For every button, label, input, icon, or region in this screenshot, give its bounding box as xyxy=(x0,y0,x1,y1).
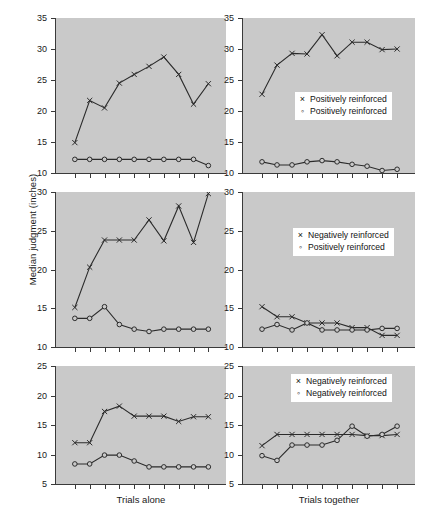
y-tick-label-row2-left-10: 10 xyxy=(21,343,47,352)
y-tick-label-row3-right-20: 20 xyxy=(208,392,234,401)
series-row3-right-circle xyxy=(260,424,400,463)
x-tick-row1-right-1 xyxy=(277,174,278,178)
x-tick-row3-left-8 xyxy=(194,485,195,489)
y-tick-row2-right-20 xyxy=(238,270,243,271)
x-tick-row3-left-5 xyxy=(149,485,150,489)
legend-entry-row2-right-1: ◦Positively reinforced xyxy=(297,242,389,254)
y-tick-label-row1-left-35: 35 xyxy=(21,14,47,23)
x-tick-row3-right-3 xyxy=(307,485,308,489)
x-tick-row2-right-8 xyxy=(382,348,383,352)
series-row1-right-circle xyxy=(260,158,400,173)
x-tick-row1-left-4 xyxy=(134,174,135,178)
y-tick-label-row3-right-5: 5 xyxy=(208,480,234,489)
x-axis-spine-row2-left xyxy=(56,347,226,348)
x-tick-row1-left-0 xyxy=(75,174,76,178)
y-tick-row1-left-35 xyxy=(51,18,56,19)
y-tick-label-row1-right-30: 30 xyxy=(208,45,234,54)
x-tick-row1-left-3 xyxy=(119,174,120,178)
legend-label: Negatively reinforced xyxy=(306,376,387,388)
x-tick-row1-right-6 xyxy=(352,174,353,178)
x-tick-row2-right-4 xyxy=(322,348,323,352)
series-row2-left-circle xyxy=(73,304,211,333)
x-tick-row2-left-0 xyxy=(75,348,76,352)
x-tick-row2-right-2 xyxy=(292,348,293,352)
circle-marker-icon: ◦ xyxy=(299,106,306,118)
x-tick-row2-left-7 xyxy=(179,348,180,352)
circle-marker-icon: ◦ xyxy=(295,388,302,400)
legend-entry-row2-right-0: ×Negatively reinforced xyxy=(297,230,389,242)
y-tick-row1-right-20 xyxy=(238,111,243,112)
series-row1-left-cross xyxy=(72,54,211,145)
legend-label: Negatively reinforced xyxy=(308,230,389,242)
legend-row3-right: ×Negatively reinforced◦Negatively reinfo… xyxy=(291,374,392,402)
legend-label: Negatively reinforced xyxy=(306,388,387,400)
y-tick-row1-left-20 xyxy=(51,111,56,112)
legend-entry-row3-right-0: ×Negatively reinforced xyxy=(295,376,387,388)
series-row3-left-cross xyxy=(72,404,211,446)
y-tick-row3-right-10 xyxy=(238,455,243,456)
y-tick-row2-right-15 xyxy=(238,308,243,309)
x-tick-row1-right-0 xyxy=(262,174,263,178)
x-tick-row3-left-1 xyxy=(90,485,91,489)
cross-marker-icon: × xyxy=(297,230,304,242)
y-tick-label-row3-right-25: 25 xyxy=(208,362,234,371)
y-tick-row1-left-25 xyxy=(51,80,56,81)
circle-marker-icon: ◦ xyxy=(297,242,304,254)
x-tick-row3-left-0 xyxy=(75,485,76,489)
x-tick-row1-right-9 xyxy=(397,174,398,178)
x-tick-row3-left-2 xyxy=(105,485,106,489)
y-tick-row3-right-20 xyxy=(238,396,243,397)
y-tick-label-row1-left-10: 10 xyxy=(21,169,47,178)
cross-marker-icon: × xyxy=(299,94,306,106)
y-tick-row1-left-30 xyxy=(51,49,56,50)
legend-entry-row3-right-1: ◦Negatively reinforced xyxy=(295,388,387,400)
chart-panel-row1-left xyxy=(56,18,226,173)
x-tick-row2-left-2 xyxy=(105,348,106,352)
x-axis-spine-row2-right xyxy=(243,347,415,348)
x-axis-spine-row3-left xyxy=(56,484,226,485)
x-tick-row2-right-5 xyxy=(337,348,338,352)
y-tick-row2-right-30 xyxy=(238,192,243,193)
x-tick-row2-right-1 xyxy=(277,348,278,352)
x-tick-row2-right-7 xyxy=(367,348,368,352)
x-axis-title-together: Trials together xyxy=(243,494,415,505)
x-tick-row2-right-9 xyxy=(397,348,398,352)
x-tick-row3-right-6 xyxy=(352,485,353,489)
series-row3-left-circle xyxy=(73,453,211,469)
x-tick-row1-right-4 xyxy=(322,174,323,178)
x-axis-title-alone: Trials alone xyxy=(56,494,226,505)
y-tick-label-row3-left-10: 10 xyxy=(21,451,47,460)
x-tick-row2-left-6 xyxy=(164,348,165,352)
y-tick-row2-left-25 xyxy=(51,231,56,232)
x-tick-row3-left-4 xyxy=(134,485,135,489)
x-axis-spine-row3-right xyxy=(243,484,415,485)
series-row2-left-cross xyxy=(72,192,211,310)
y-tick-row1-right-30 xyxy=(238,49,243,50)
x-tick-row2-left-5 xyxy=(149,348,150,352)
y-tick-label-row3-right-10: 10 xyxy=(208,451,234,460)
x-tick-row3-right-0 xyxy=(262,485,263,489)
x-tick-row2-left-1 xyxy=(90,348,91,352)
y-tick-label-row2-left-15: 15 xyxy=(21,304,47,313)
x-tick-row3-right-4 xyxy=(322,485,323,489)
x-tick-row2-right-0 xyxy=(262,348,263,352)
x-tick-row3-left-7 xyxy=(179,485,180,489)
y-tick-label-row1-right-15: 15 xyxy=(208,138,234,147)
y-tick-label-row3-left-20: 20 xyxy=(21,392,47,401)
y-tick-row1-right-15 xyxy=(238,142,243,143)
cross-marker-icon: × xyxy=(295,376,302,388)
chart-panel-row3-left xyxy=(56,366,226,484)
y-tick-row1-left-15 xyxy=(51,142,56,143)
figure-multipanel-chart: Median judgment (inches) 101520253035101… xyxy=(0,0,432,528)
x-tick-row3-left-6 xyxy=(164,485,165,489)
y-tick-label-row2-left-20: 20 xyxy=(21,266,47,275)
legend-row1-right: ×Positively reinforced◦Positively reinfo… xyxy=(295,92,392,120)
legend-entry-row1-right-1: ◦Positively reinforced xyxy=(299,106,387,118)
x-tick-row1-left-7 xyxy=(179,174,180,178)
y-tick-label-row2-right-10: 10 xyxy=(208,343,234,352)
x-tick-row2-right-6 xyxy=(352,348,353,352)
x-tick-row1-left-6 xyxy=(164,174,165,178)
x-tick-row1-right-8 xyxy=(382,174,383,178)
y-tick-label-row1-right-25: 25 xyxy=(208,76,234,85)
series-row1-right-cross xyxy=(259,32,399,97)
